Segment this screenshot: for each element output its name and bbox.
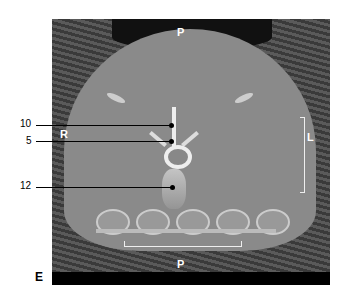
spinal-canal [164, 145, 192, 169]
leader-line-12 [36, 187, 173, 188]
label-top-p: P [177, 26, 184, 38]
callout-dot-10 [169, 123, 174, 128]
callout-5: 5 [26, 135, 32, 146]
vertebra [154, 107, 194, 207]
callout-12: 12 [20, 180, 31, 191]
label-bottom-p: P [177, 258, 184, 270]
leader-line-10 [36, 125, 171, 126]
callout-10: 10 [20, 118, 31, 129]
leader-line-5 [36, 141, 171, 142]
bottom-bar [52, 272, 330, 285]
bracket-p [124, 241, 242, 247]
label-r: R [60, 128, 68, 140]
table-base [96, 229, 276, 233]
rib-left [106, 91, 127, 105]
callout-dot-12 [170, 185, 175, 190]
rib-right [234, 91, 255, 105]
bracket-l [300, 117, 305, 193]
scanner-table [86, 205, 294, 239]
label-l: L [307, 131, 314, 143]
panel-label: E [35, 270, 43, 284]
callout-dot-5 [169, 139, 174, 144]
